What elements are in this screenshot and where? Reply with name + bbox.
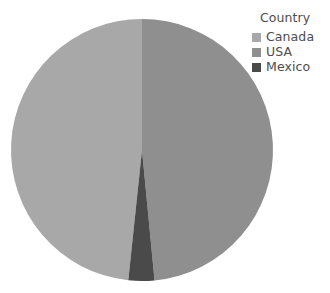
legend-title: Country — [260, 10, 330, 26]
legend-item-label: Mexico — [266, 60, 310, 74]
chart-legend: Country CanadaUSAMexico — [252, 10, 330, 75]
legend-swatch-icon — [252, 63, 261, 72]
legend-swatch-icon — [252, 48, 261, 57]
legend-item-label: Canada — [266, 30, 314, 44]
pie-slice-canada[interactable] — [11, 19, 142, 280]
legend-item-label: USA — [266, 45, 292, 59]
pie-chart-figure: Country CanadaUSAMexico — [0, 0, 330, 293]
legend-item-list: CanadaUSAMexico — [252, 30, 330, 74]
legend-item-mexico[interactable]: Mexico — [252, 60, 330, 74]
legend-item-usa[interactable]: USA — [252, 45, 330, 59]
legend-swatch-icon — [252, 33, 261, 42]
legend-item-canada[interactable]: Canada — [252, 30, 330, 44]
pie-slice-group — [11, 19, 273, 281]
